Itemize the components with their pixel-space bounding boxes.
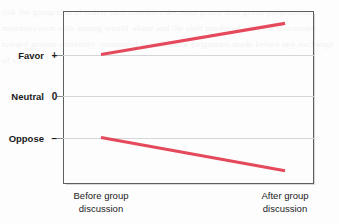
series-lines-layer [0,0,339,224]
attitude-polarization-line-chart: Favor + Neutral 0 Oppose − Before group … [0,0,339,224]
series-line-oppose-group [101,138,285,171]
series-line-favor-group [101,23,285,54]
